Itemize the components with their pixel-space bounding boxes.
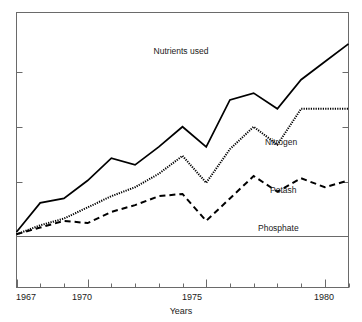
series-label-potash: Potash xyxy=(270,185,297,195)
x-tick-label-1970: 1970 xyxy=(72,292,92,302)
x-tick-label-1980: 1980 xyxy=(314,292,334,302)
x-tick-label-1967: 1967 xyxy=(16,292,36,302)
series-label-nitrogen: Nitrogen xyxy=(265,137,297,147)
series-label-phosphate: Phosphate xyxy=(258,223,299,233)
plot-title: Nutrients used xyxy=(154,46,209,56)
x-tick-label-1975: 1975 xyxy=(182,292,202,302)
nutrients-used-line-chart: 1967 1970 1975 1980 Years Nutrients used… xyxy=(0,0,362,322)
x-axis-title: Years xyxy=(170,306,193,316)
